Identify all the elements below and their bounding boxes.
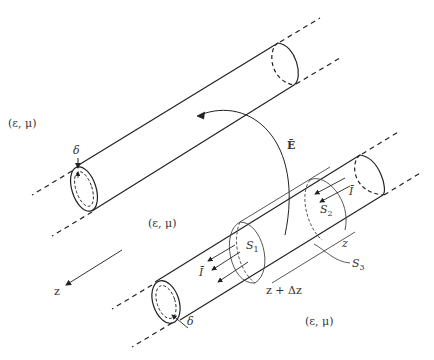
diagram-canvas — [0, 0, 434, 360]
surface-s3-cylinder — [229, 167, 355, 283]
surface-s2-label: S2 — [320, 204, 333, 218]
z-axis-arrow — [66, 250, 122, 285]
medium-label-top-left: (ε, μ) — [8, 118, 36, 129]
lower-conductor — [112, 131, 422, 347]
skin-depth-label-top: δ — [73, 145, 80, 156]
field-arrowhead-icon — [197, 112, 205, 119]
z-plus-delta-z-label: z + Δz — [266, 285, 302, 296]
current-label-bottom: Ī — [199, 267, 203, 278]
electric-field-label: Ē — [287, 140, 295, 151]
current-label-top: Ī — [349, 186, 353, 197]
medium-label-center: (ε, μ) — [148, 218, 176, 229]
surface-s3-label: S3 — [352, 258, 365, 272]
upper-conductor — [32, 18, 340, 236]
z-position-label: z — [342, 238, 348, 249]
current-arrows-s1 — [208, 245, 248, 282]
z-axis-label: z — [54, 286, 60, 297]
skin-depth-label-bottom: δ — [187, 316, 194, 327]
current-arrows-s2 — [315, 178, 350, 202]
surface-s1-label: S1 — [246, 240, 259, 254]
medium-label-bottom-right: (ε, μ) — [305, 316, 333, 327]
electric-field-arc — [200, 110, 289, 235]
